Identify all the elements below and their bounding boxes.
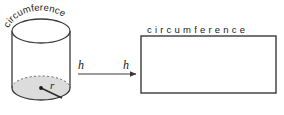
cylinder-group: r circumference bbox=[1, 1, 70, 100]
rectangle-group: circumference bbox=[141, 24, 276, 93]
rectangle-circumference-label: circumference bbox=[147, 24, 248, 35]
radius-label: r bbox=[50, 79, 55, 91]
figure-canvas: r circumference h h circumference bbox=[0, 0, 284, 115]
cylinder-center-dot bbox=[39, 86, 43, 90]
cylinder-height-label: h bbox=[78, 58, 84, 72]
rectangle-height-label-left: h bbox=[123, 58, 129, 72]
transform-arrow-group: h h bbox=[78, 58, 136, 74]
cylinder-top-face bbox=[12, 19, 70, 43]
unrolled-rectangle bbox=[141, 36, 276, 93]
geometry-figure: r circumference h h circumference bbox=[0, 0, 284, 115]
